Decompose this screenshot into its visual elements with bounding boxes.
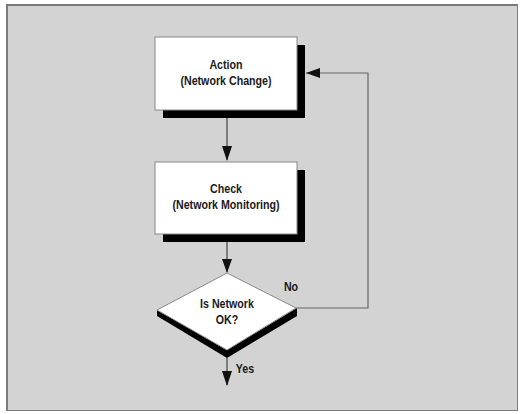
arrowhead-icon	[306, 68, 320, 78]
arrowhead-icon	[222, 371, 232, 386]
check-subtitle: (Network Monitoring)	[168, 197, 284, 213]
action-title: Action	[168, 57, 284, 73]
decision-line1: Is Network	[178, 296, 276, 312]
arrow-no-loop	[296, 73, 368, 308]
action-subtitle: (Network Change)	[168, 73, 284, 89]
yes-label: Yes	[233, 361, 258, 377]
action-node-label: Action (Network Change)	[168, 57, 284, 89]
arrowhead-icon	[222, 259, 232, 273]
decision-line2: OK?	[178, 312, 276, 328]
arrowhead-icon	[222, 146, 232, 161]
decision-node-label: Is Network OK?	[178, 296, 276, 328]
check-node-label: Check (Network Monitoring)	[168, 181, 284, 213]
no-label: No	[279, 279, 304, 295]
check-title: Check	[168, 181, 284, 197]
